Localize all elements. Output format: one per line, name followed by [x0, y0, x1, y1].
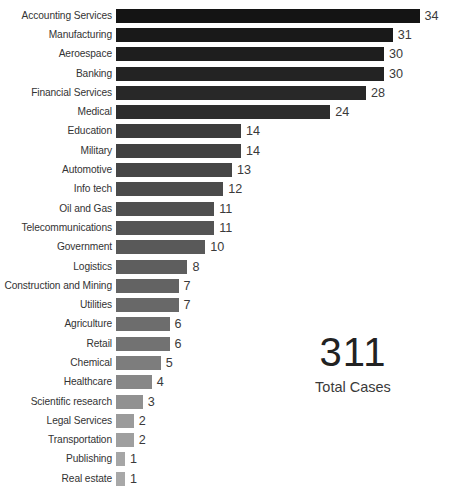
bar-container: 31: [116, 28, 457, 42]
bar: [116, 124, 241, 138]
category-label: Chemical: [0, 357, 116, 369]
category-label: Aeroespace: [0, 48, 116, 60]
bar-value-label: 31: [398, 28, 412, 42]
bar: [116, 67, 384, 81]
bar-container: 2: [116, 414, 457, 428]
bar-row: Logistics8: [0, 257, 457, 276]
bar-container: 3: [116, 395, 457, 409]
bar-container: 8: [116, 260, 457, 274]
category-label: Military: [0, 145, 116, 157]
bar-value-label: 28: [371, 86, 385, 100]
bar-value-label: 13: [237, 163, 251, 177]
total-value: 311: [268, 330, 438, 374]
bar-row: Transportation2: [0, 431, 457, 450]
category-label: Government: [0, 241, 116, 253]
bar-value-label: 30: [389, 47, 403, 61]
bar-row: Legal Services2: [0, 411, 457, 430]
bar-row: Financial Services28: [0, 83, 457, 102]
bar-value-label: 11: [219, 202, 232, 216]
bar: [116, 240, 205, 254]
category-label: Financial Services: [0, 87, 116, 99]
category-label: Logistics: [0, 261, 116, 273]
bar-value-label: 1: [130, 472, 137, 486]
bar-container: 1: [116, 452, 457, 466]
bar: [116, 414, 134, 428]
category-label: Manufacturing: [0, 29, 116, 41]
bar-value-label: 24: [335, 105, 349, 119]
bar-row: Automotive13: [0, 160, 457, 179]
bar-value-label: 7: [184, 279, 191, 293]
bar: [116, 375, 152, 389]
category-label: Accounting Services: [0, 10, 116, 22]
bar: [116, 356, 161, 370]
bar: [116, 105, 330, 119]
category-label: Automotive: [0, 164, 116, 176]
bar: [116, 28, 393, 42]
bar-container: 30: [116, 67, 457, 81]
bar-row: Aeroespace30: [0, 45, 457, 64]
bar: [116, 452, 125, 466]
bar-container: 7: [116, 298, 457, 312]
bar: [116, 317, 170, 331]
bar-row: Info tech12: [0, 180, 457, 199]
bar-row: Construction and Mining7: [0, 276, 457, 295]
bar-container: 12: [116, 182, 457, 196]
bar-row: Medical24: [0, 102, 457, 121]
bar: [116, 433, 134, 447]
bar-value-label: 2: [139, 414, 146, 428]
bar-container: 1: [116, 472, 457, 486]
category-label: Scientific research: [0, 396, 116, 408]
bar-container: 2: [116, 433, 457, 447]
bar: [116, 86, 366, 100]
bar-container: 30: [116, 47, 457, 61]
category-label: Agriculture: [0, 318, 116, 330]
bar: [116, 47, 384, 61]
bar-container: 34: [116, 9, 457, 23]
bar-container: 11: [116, 221, 457, 235]
bar-value-label: 11: [219, 221, 232, 235]
total-summary: 311 Total Cases: [268, 330, 438, 396]
bar: [116, 9, 420, 23]
bar-row: Oil and Gas11: [0, 199, 457, 218]
category-label: Publishing: [0, 453, 116, 465]
bar-container: 24: [116, 105, 457, 119]
category-label: Utilities: [0, 299, 116, 311]
bar: [116, 163, 232, 177]
category-label: Transportation: [0, 434, 116, 446]
bar-value-label: 12: [228, 182, 242, 196]
bar-container: 13: [116, 163, 457, 177]
bar: [116, 472, 125, 486]
bar-row: Banking30: [0, 64, 457, 83]
category-label: Legal Services: [0, 415, 116, 427]
category-label: Education: [0, 125, 116, 137]
bar-value-label: 6: [175, 317, 182, 331]
bar-row: Government10: [0, 238, 457, 257]
bar-row: Utilities7: [0, 295, 457, 314]
bar-value-label: 7: [184, 298, 191, 312]
bar-row: Military14: [0, 141, 457, 160]
bar-value-label: 34: [425, 9, 439, 23]
total-caption: Total Cases: [268, 378, 438, 396]
category-label: Healthcare: [0, 376, 116, 388]
bar-container: 14: [116, 144, 457, 158]
bar: [116, 202, 214, 216]
bar-value-label: 6: [175, 337, 182, 351]
bar-rows: Accounting Services34Manufacturing31Aero…: [0, 6, 457, 488]
bar-row: Real estate1: [0, 469, 457, 488]
bar: [116, 279, 179, 293]
bar-row: Accounting Services34: [0, 6, 457, 25]
bar-container: 11: [116, 202, 457, 216]
category-label: Construction and Mining: [0, 280, 116, 292]
bar: [116, 260, 187, 274]
bar-container: 7: [116, 279, 457, 293]
bar: [116, 337, 170, 351]
bar-value-label: 10: [210, 240, 224, 254]
bar-value-label: 4: [157, 375, 164, 389]
bar-container: 10: [116, 240, 457, 254]
bar-value-label: 14: [246, 124, 260, 138]
bar-row: Manufacturing31: [0, 25, 457, 44]
bar-row: Education14: [0, 122, 457, 141]
bar: [116, 298, 179, 312]
category-label: Medical: [0, 106, 116, 118]
bar-container: 28: [116, 86, 457, 100]
